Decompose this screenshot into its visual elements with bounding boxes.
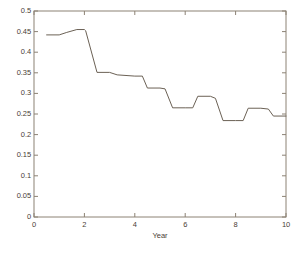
y-tick-label: 0.15 [17,150,31,159]
x-tick-label: 0 [14,220,54,229]
y-tick-label: 0.35 [17,68,31,77]
y-tick-label: 0.3 [21,88,31,97]
x-tick-label: 8 [216,220,256,229]
y-tick-label: 0.5 [21,6,31,15]
y-tick-label: 0.1 [21,171,31,180]
x-axis-label: Year [130,231,190,240]
x-tick-label: 6 [165,220,205,229]
y-tick-label: 0.25 [17,109,31,118]
plot-canvas [0,0,305,254]
x-tick-label: 2 [64,220,104,229]
y-tick-label: 0.4 [21,47,31,56]
y-tick-label: 0.2 [21,130,31,139]
plot-background [34,11,286,217]
y-tick-label: 0.05 [17,191,31,200]
chart-figure: 00.050.10.150.20.250.30.350.40.450.5 024… [0,0,305,254]
y-tick-label: 0.45 [17,27,31,36]
x-tick-label: 10 [266,220,305,229]
x-tick-label: 4 [115,220,155,229]
